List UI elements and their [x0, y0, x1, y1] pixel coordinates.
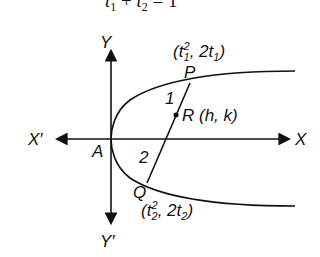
x-axis-label: X — [294, 130, 307, 149]
equation-title: t1 + t2 = 1 — [105, 0, 178, 14]
ratio-rq-label: 2 — [138, 148, 149, 167]
point-r — [174, 113, 179, 118]
point-p-coords: (t21, 2t1) — [173, 40, 225, 63]
point-q-label: Q — [133, 183, 146, 202]
y-axis-label: Y — [100, 33, 113, 52]
point-r-label: R (h, k) — [182, 106, 238, 125]
point-p-label: P — [184, 63, 196, 82]
y-neg-axis-label: Y′ — [100, 232, 115, 251]
x-neg-axis-label: X′ — [27, 130, 43, 149]
ratio-pr-label: 1 — [165, 89, 174, 108]
point-q-coords: (t22, 2t2) — [141, 199, 193, 222]
origin-label: A — [91, 142, 103, 161]
parabola-diagram: t1 + t2 = 1 Y Y′ X X′ A P (t21, 2t1) Q (… — [0, 0, 320, 257]
